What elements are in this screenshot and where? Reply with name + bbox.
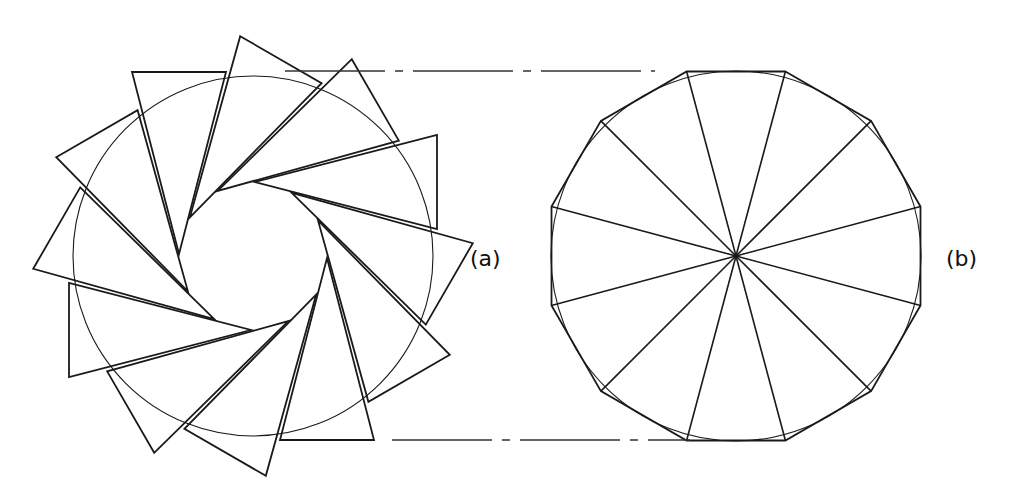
circle	[73, 76, 433, 436]
pinwheel-triangle	[132, 72, 226, 254]
radial-line	[736, 207, 921, 256]
label-a: (a)	[470, 246, 501, 271]
pinwheel-triangle	[69, 283, 251, 377]
pinwheel-triangle	[33, 187, 214, 319]
panel-a-pinwheel	[33, 36, 473, 476]
radial-line	[736, 256, 785, 441]
label-b: (b)	[946, 246, 977, 271]
radial-line	[736, 256, 871, 391]
pinwheel-triangle	[255, 135, 437, 229]
radial-line	[552, 207, 737, 256]
pinwheel-triangle	[318, 221, 450, 402]
radial-line	[687, 256, 736, 441]
pinwheel-triangle	[280, 258, 374, 440]
pinwheel-triangle	[56, 110, 188, 291]
panel-b-dodecagon	[551, 71, 921, 441]
radial-line	[601, 256, 736, 391]
radial-line	[601, 121, 736, 256]
radial-line	[736, 121, 871, 256]
diagram-canvas	[0, 0, 1011, 482]
radial-line	[736, 256, 921, 305]
pinwheel-triangle	[292, 193, 473, 325]
radial-line	[687, 72, 736, 257]
radial-line	[552, 256, 737, 305]
pinwheel-triangle	[190, 36, 322, 217]
pinwheel-triangle	[107, 321, 288, 453]
pinwheel-triangle	[218, 59, 399, 191]
pinwheel-triangle	[184, 295, 316, 476]
radial-line	[736, 72, 785, 257]
